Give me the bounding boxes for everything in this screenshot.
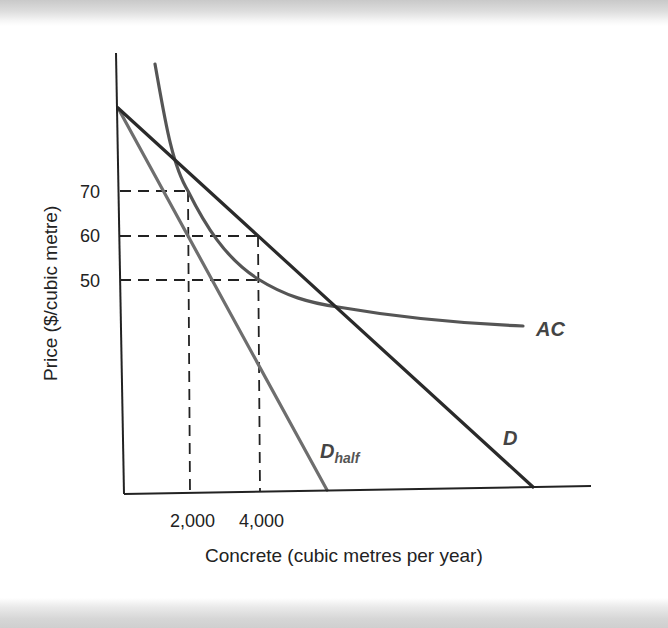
y-axis-title: Price ($/cubic metre) <box>40 206 61 381</box>
dhalf-label: Dhalf <box>320 440 361 466</box>
demand-half-curve <box>118 108 327 490</box>
y-tick-60: 60 <box>80 226 100 246</box>
y-tick-70: 70 <box>80 182 100 202</box>
dhalf-label-sub: half <box>334 450 360 466</box>
ac-label: AC <box>535 318 565 340</box>
d-label: D <box>503 427 517 449</box>
x-tick-2000: 2,000 <box>170 511 215 531</box>
x-tick-4000: 4,000 <box>239 511 284 531</box>
guide-lines <box>120 191 260 492</box>
average-cost-curve <box>155 64 523 326</box>
dhalf-label-main: D <box>320 440 334 462</box>
x-axis-title: Concrete (cubic metres per year) <box>205 545 483 566</box>
demand-curve <box>118 108 533 487</box>
x-axis <box>124 486 591 494</box>
y-tick-50: 50 <box>80 271 100 291</box>
chart: 70 60 50 2,000 4,000 Concrete (cubic met… <box>0 0 668 628</box>
